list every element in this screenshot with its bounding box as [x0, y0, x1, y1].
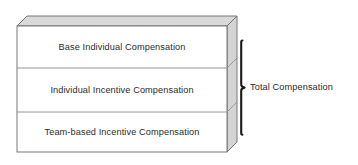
band-label-base: Base Individual Compensation	[59, 42, 186, 52]
compensation-diagram: Base Individual Compensation Individual …	[0, 0, 358, 165]
bracket-label-total-compensation: Total Compensation	[250, 82, 333, 92]
bracket-shape	[241, 41, 244, 135]
diagram-canvas: Base Individual Compensation Individual …	[0, 0, 358, 165]
block-right-face	[227, 16, 237, 152]
band-label-individual-incentive: Individual Incentive Compensation	[50, 85, 193, 95]
three-d-block: Base Individual Compensation Individual …	[17, 16, 237, 152]
band-label-team-incentive: Team-based Incentive Compensation	[45, 127, 200, 137]
total-compensation-bracket	[241, 41, 244, 135]
block-top-face	[17, 16, 237, 26]
